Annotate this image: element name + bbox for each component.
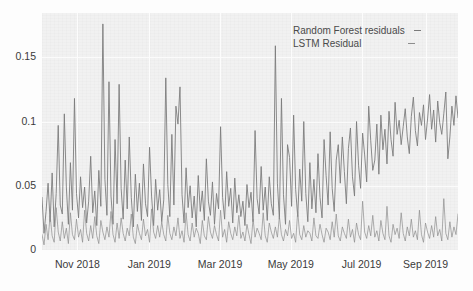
series-random-forest [42,24,458,233]
legend: Random Forest residuals LSTM Residual [293,24,405,50]
legend-dash-random-forest [414,30,421,31]
legend-label-lstm: LSTM Residual [293,37,361,50]
legend-item-random-forest: Random Forest residuals [293,24,405,37]
legend-label-random-forest: Random Forest residuals [293,24,405,37]
series-lstm [42,199,458,245]
y-axis-tick-label: 0.05 [0,179,36,191]
legend-item-lstm: LSTM Residual [293,37,405,50]
y-axis-tick-label: 0 [0,243,36,255]
legend-dash-lstm [408,43,415,44]
y-axis-tick-label: 0.15 [0,50,36,62]
x-axis-tick-label: Sep 2019 [384,258,468,270]
y-axis-tick-label: 0.1 [0,115,36,127]
residuals-chart: 00.050.10.15 Nov 2018Jan 2019Mar 2019May… [0,0,473,291]
